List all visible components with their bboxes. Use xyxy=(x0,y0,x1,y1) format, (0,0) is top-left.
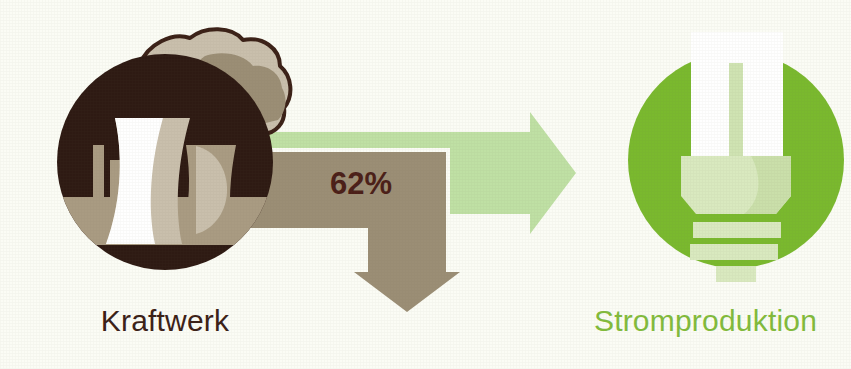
infographic-canvas: 62% Kraftwerk Stromproduktion xyxy=(0,0,851,369)
bulb-thread-1-icon xyxy=(693,222,781,238)
bulb-contact-icon xyxy=(716,266,756,282)
target-node-label: Stromproduktion xyxy=(560,304,851,338)
percent-label: 62% xyxy=(330,166,450,202)
bulb-filament-icon xyxy=(729,63,743,158)
bulb-thread-2-icon xyxy=(690,244,778,260)
source-node-label: Kraftwerk xyxy=(0,304,330,338)
